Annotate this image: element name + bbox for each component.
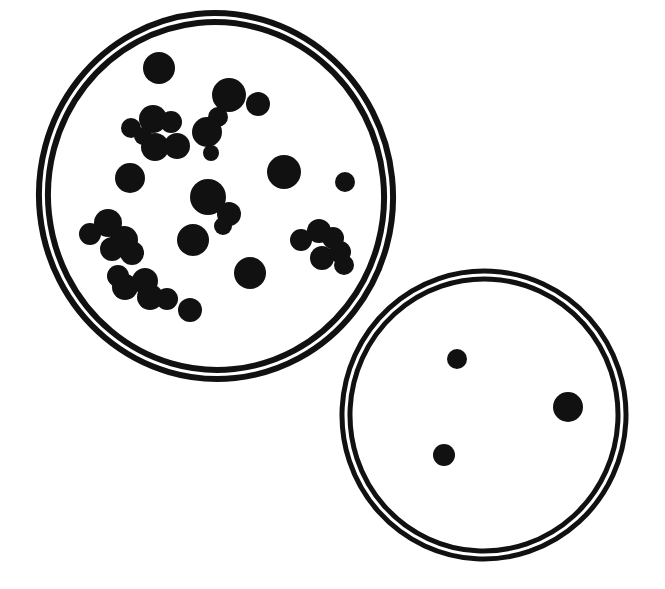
colony-dense-36: [134, 127, 152, 145]
colony-dense-22: [120, 241, 144, 265]
colony-dense-10: [164, 133, 190, 159]
colony-dense-5: [192, 117, 222, 147]
colony-dense-2: [212, 78, 246, 112]
colony-dense-37: [214, 217, 232, 235]
colony-dense-3: [246, 92, 270, 116]
colony-dense-11: [115, 163, 145, 193]
colony-dense-17: [234, 257, 266, 289]
colony-dense-12: [267, 155, 301, 189]
figure-canvas: [0, 0, 665, 589]
colony-dense-26: [156, 288, 178, 310]
colony-sparse-2: [553, 392, 583, 422]
petri-dish-figure: [0, 0, 665, 589]
colony-dense-34: [334, 255, 354, 275]
colony-dense-1: [143, 52, 175, 84]
colony-sparse-3: [433, 444, 455, 466]
colony-sparse-1: [447, 349, 467, 369]
colony-dense-16: [177, 224, 209, 256]
colony-dense-35: [203, 145, 219, 161]
colony-dense-21: [100, 237, 124, 261]
colony-dense-28: [107, 265, 129, 287]
colony-dense-27: [178, 298, 202, 322]
colony-dense-13: [335, 172, 355, 192]
colony-dense-8: [160, 111, 182, 133]
